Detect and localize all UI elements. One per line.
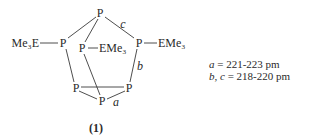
atoms: P P P P P P P Me₃E EMe₃ EMe₃ xyxy=(11,6,185,108)
legend-value-a: = 221-223 pm xyxy=(215,58,280,70)
atom-p-left: P xyxy=(60,36,67,50)
legend-line-a: a = 221-223 pm xyxy=(209,58,290,70)
substituent-inner: EMe₃ xyxy=(99,41,127,55)
atom-p-inner: P xyxy=(79,41,86,55)
atom-p-bottom-right: P xyxy=(126,81,133,95)
bond-label-b: b xyxy=(137,59,143,73)
substituent-left: Me₃E xyxy=(11,36,39,50)
bond-labels: c b a xyxy=(113,17,143,109)
bond-top-inner xyxy=(85,19,98,42)
atom-p-bottom: P xyxy=(99,94,106,108)
legend-value-bc: = 218-220 pm xyxy=(225,70,290,82)
atom-p-top: P xyxy=(97,6,104,20)
legend-line-bc: b, c = 218-220 pm xyxy=(209,70,290,82)
atom-p-bottom-left: P xyxy=(73,81,80,95)
bond-bottomleft-bottom xyxy=(79,91,97,99)
bonds xyxy=(40,17,157,99)
bond-length-legend: a = 221-223 pm b, c = 218-220 pm xyxy=(209,58,290,82)
compound-number: (1) xyxy=(89,121,103,136)
bond-left-bottomleft xyxy=(66,49,74,82)
bond-label-c: c xyxy=(120,17,126,31)
bond-b-right-bottomright xyxy=(130,49,137,82)
bond-top-left xyxy=(68,17,96,38)
bond-inner-bottom xyxy=(84,54,100,95)
substituent-right: EMe₃ xyxy=(158,36,186,50)
atom-p-right: P xyxy=(136,36,143,50)
bond-label-a: a xyxy=(113,95,119,109)
